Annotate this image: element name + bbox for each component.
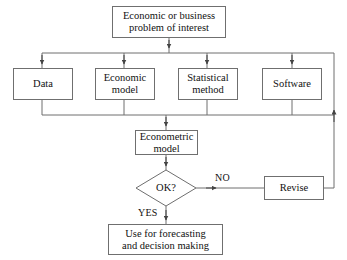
- node-econometric-model-line2: model: [138, 143, 196, 155]
- node-problem[interactable]: Economic or business problem of interest: [112, 6, 226, 38]
- node-forecast-line2: and decision making: [120, 240, 211, 252]
- node-economic-model[interactable]: Economic model: [95, 68, 155, 100]
- node-revise[interactable]: Revise: [264, 176, 324, 200]
- edge-revise-feedback-riser: [324, 53, 334, 188]
- node-econometric-model-line1: Econometric: [138, 131, 196, 143]
- node-statistical-method-line1: Statistical: [185, 72, 230, 84]
- node-decision-label[interactable]: OK?: [146, 180, 186, 196]
- node-econometric-model[interactable]: Econometric model: [135, 130, 198, 155]
- edge-label-no: NO: [215, 172, 230, 183]
- node-decision-text: OK?: [154, 182, 178, 194]
- node-forecast-line1: Use for forecasting: [120, 228, 211, 240]
- node-problem-line2: problem of interest: [121, 22, 217, 34]
- node-software-label: Software: [271, 78, 313, 90]
- node-economic-model-line1: Economic: [102, 72, 149, 84]
- node-data[interactable]: Data: [13, 68, 73, 100]
- node-data-label: Data: [31, 78, 55, 90]
- node-economic-model-line2: model: [102, 84, 149, 96]
- node-statistical-method-line2: method: [185, 84, 230, 96]
- flowchart-canvas: Economic or business problem of interest…: [0, 0, 347, 260]
- node-forecast[interactable]: Use for forecasting and decision making: [108, 224, 223, 255]
- edge-label-yes: YES: [138, 207, 158, 218]
- node-revise-label: Revise: [278, 182, 311, 194]
- node-software[interactable]: Software: [262, 68, 322, 100]
- node-statistical-method[interactable]: Statistical method: [178, 68, 238, 100]
- node-problem-line1: Economic or business: [121, 10, 217, 22]
